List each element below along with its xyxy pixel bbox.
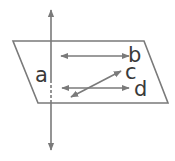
perpendicular-line-plane-diagram: a b c d	[0, 0, 175, 161]
label-a: a	[35, 63, 48, 87]
label-d: d	[134, 77, 147, 101]
line-c	[71, 71, 121, 97]
